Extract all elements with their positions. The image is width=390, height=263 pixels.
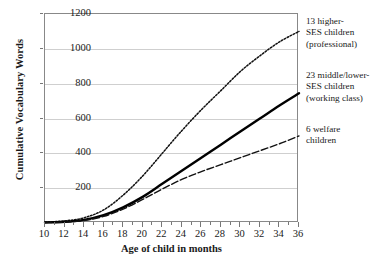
- x-minor-tick-mark: [73, 222, 74, 225]
- x-minor-tick-mark: [93, 222, 94, 225]
- x-tick-mark: [64, 222, 65, 227]
- x-tick-mark: [200, 222, 201, 227]
- x-minor-tick-mark: [112, 222, 113, 225]
- x-tick-mark: [278, 222, 279, 227]
- x-minor-tick-mark: [151, 222, 152, 225]
- x-minor-tick-mark: [191, 222, 192, 225]
- x-tick-label: 36: [283, 228, 313, 239]
- x-tick-mark: [220, 222, 221, 227]
- y-tick-label: 600: [51, 113, 91, 123]
- x-tick-mark: [103, 222, 104, 227]
- x-tick-mark: [142, 222, 143, 227]
- legend-label-line: (working class): [306, 93, 390, 104]
- x-tick-mark: [122, 222, 123, 227]
- y-axis-title: Cumulative Vocabulary Words: [14, 5, 25, 215]
- x-minor-tick-mark: [171, 222, 172, 225]
- y-tick-mark: [40, 83, 43, 84]
- y-tick-label: 1200: [51, 8, 91, 18]
- x-tick-mark: [298, 222, 299, 227]
- x-tick-mark: [83, 222, 84, 227]
- legend-label-line: children: [306, 135, 390, 146]
- legend-entry-0: 13 higher-SES children(professional): [306, 16, 390, 50]
- x-minor-tick-mark: [210, 222, 211, 225]
- x-axis-title: Age of child in months: [44, 243, 299, 254]
- series-line-0: [45, 31, 299, 222]
- x-minor-tick-mark: [288, 222, 289, 225]
- x-minor-tick-mark: [249, 222, 250, 225]
- legend-label-line: (professional): [306, 39, 390, 50]
- x-tick-mark: [44, 222, 45, 227]
- y-tick-mark: [40, 13, 43, 14]
- legend-entry-1: 23 middle/lower-SES children(working cla…: [306, 70, 390, 104]
- x-tick-mark: [259, 222, 260, 227]
- legend-label-line: 6 welfare: [306, 124, 390, 135]
- y-tick-mark: [40, 187, 43, 188]
- x-tick-mark: [239, 222, 240, 227]
- legend-label-line: 23 middle/lower-: [306, 70, 390, 81]
- legend-label-line: SES children: [306, 81, 390, 92]
- legend-label-line: 13 higher-: [306, 16, 390, 27]
- x-minor-tick-mark: [54, 222, 55, 225]
- vocabulary-growth-chart: Cumulative Vocabulary Words 200400600800…: [0, 0, 390, 263]
- y-tick-mark: [40, 48, 43, 49]
- y-tick-label: 200: [51, 182, 91, 192]
- x-minor-tick-mark: [132, 222, 133, 225]
- x-tick-mark: [161, 222, 162, 227]
- y-tick-mark: [40, 152, 43, 153]
- x-minor-tick-mark: [230, 222, 231, 225]
- y-tick-label: 1000: [51, 43, 91, 53]
- x-tick-mark: [181, 222, 182, 227]
- y-tick-mark: [40, 118, 43, 119]
- y-tick-label: 800: [51, 78, 91, 88]
- x-minor-tick-mark: [269, 222, 270, 225]
- legend-entry-2: 6 welfarechildren: [306, 124, 390, 147]
- y-tick-label: 400: [51, 147, 91, 157]
- legend-label-line: SES children: [306, 27, 390, 38]
